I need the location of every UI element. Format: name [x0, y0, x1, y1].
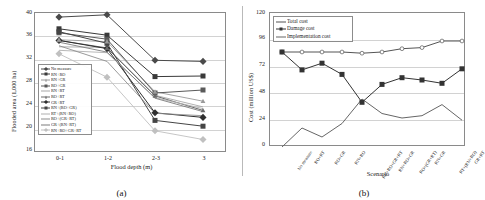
- panel-b-xtick-1: RO+RT: [313, 150, 325, 165]
- legend-item[interactable]: RN+RO+GR+RT: [41, 128, 90, 134]
- legend-marker-diamond-icon: [41, 100, 50, 105]
- panel-a-ytick-20: 20: [14, 123, 32, 129]
- legend-item[interactable]: Implementation cost: [276, 33, 350, 40]
- panel-a: Flooded area (1,000 ha) 40 36 32 28 24 2…: [0, 0, 243, 200]
- panel-a-xtick-0: 0-1: [44, 155, 76, 161]
- legend-marker-diamond-icon: [41, 128, 50, 133]
- panel-a-xtick-3: 3: [188, 155, 220, 161]
- legend-marker-triangle-icon: [41, 77, 50, 82]
- figure-container: Flooded area (1,000 ha) 40 36 32 28 24 2…: [0, 0, 485, 200]
- legend-marker-square-icon: [41, 83, 50, 88]
- panel-b-ytick-72: 72: [249, 61, 265, 67]
- panel-b-ytick-0: 0: [249, 141, 265, 147]
- panel-b-ytick-48: 48: [249, 88, 265, 94]
- panel-b: Cost (million US$) 120 96 72 48 24 0: [243, 0, 485, 200]
- legend-item[interactable]: Damage cost: [276, 25, 350, 32]
- panel-b-x-axis-label: Scenario: [257, 170, 485, 177]
- panel-a-caption: (a): [0, 188, 243, 198]
- panel-a-ytick-32: 32: [14, 54, 32, 60]
- legend-label: Damage cost: [287, 25, 350, 32]
- panel-b-xtick-2: RO+GR: [334, 150, 347, 165]
- panel-b-caption: (b): [243, 188, 485, 198]
- legend-label: Implementation cost: [287, 33, 350, 40]
- panel-a-ytick-16: 16: [14, 146, 32, 152]
- panel-a-legend: No measure RN+RO RN+GR RO+GR RN+RT RO+RT: [38, 64, 92, 135]
- panel-a-xtick-2: 2-3: [140, 155, 172, 161]
- panel-b-ytick-96: 96: [249, 34, 265, 40]
- panel-a-x-axis-label: Flood depth (m): [10, 163, 253, 170]
- legend-marker-line-icon: [276, 34, 286, 40]
- legend-label: Total cost: [287, 18, 350, 25]
- legend-marker-line-icon: [41, 89, 50, 94]
- panel-a-ytick-28: 28: [14, 77, 32, 83]
- panel-a-ytick-40: 40: [14, 9, 32, 15]
- panel-b-legend: Total cost Damage cost Implementation co…: [273, 16, 353, 42]
- panel-a-ytick-24: 24: [14, 100, 32, 106]
- panel-b-xtick-3: RN+RO: [354, 150, 367, 165]
- panel-a-ytick-36: 36: [14, 31, 32, 37]
- panel-b-ytick-24: 24: [249, 115, 265, 121]
- panel-b-xtick-0: No measure: [296, 150, 313, 171]
- panel-a-xtick-1: 1-2: [92, 155, 124, 161]
- legend-marker-square-icon: [41, 105, 50, 110]
- legend-marker-diamond-icon: [41, 66, 50, 71]
- legend-marker-line-icon: [41, 111, 50, 116]
- panel-b-ytick-120: 120: [249, 9, 265, 15]
- legend-label: RN+RO+GR+RT: [51, 128, 90, 134]
- legend-marker-square-icon: [41, 72, 50, 77]
- legend-item[interactable]: Total cost: [276, 18, 350, 25]
- legend-marker-square-icon: [276, 26, 286, 32]
- legend-marker-line-icon: [276, 19, 286, 25]
- legend-marker-line-icon: [41, 117, 50, 122]
